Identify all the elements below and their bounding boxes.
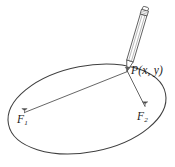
focus-1-index: 1 [24, 119, 28, 127]
pencil-barrel [127, 14, 147, 62]
segment-f2-to-p [128, 72, 146, 107]
pencil-icon [123, 6, 149, 73]
ellipse-figure: P(x, y) F1 F2 [0, 0, 175, 167]
focus-1-label: F1 [17, 114, 28, 127]
focus-1-tack-head [22, 109, 27, 111]
focus-1-letter: F [17, 113, 24, 125]
focus-2-label: F2 [137, 111, 148, 124]
focus-marker-f2 [142, 102, 147, 107]
focus-2-index: 2 [144, 116, 148, 124]
focus-2-letter: F [137, 110, 144, 122]
focal-radii-group [25, 72, 146, 113]
ellipse-diagram-svg [0, 0, 175, 167]
point-p-label: P(x, y) [131, 65, 163, 77]
segment-f1-to-p [25, 72, 128, 113]
